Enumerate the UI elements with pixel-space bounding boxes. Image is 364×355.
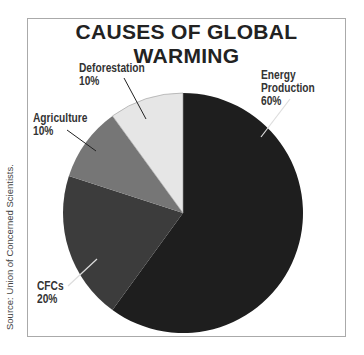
source-note: Source: Union of Concerned Scientists.	[4, 164, 15, 330]
label-defor-pct: 10%	[79, 75, 145, 88]
label-deforestation: Deforestation 10%	[79, 62, 145, 88]
label-energy-pct: 60%	[261, 95, 315, 108]
label-cfcs: CFCs 20%	[37, 280, 64, 306]
label-agri-pct: 10%	[33, 125, 87, 138]
label-agriculture: Agriculture 10%	[33, 112, 87, 138]
label-cfcs-pct: 20%	[37, 293, 64, 306]
label-energy-production: Energy Production 60%	[261, 69, 315, 108]
